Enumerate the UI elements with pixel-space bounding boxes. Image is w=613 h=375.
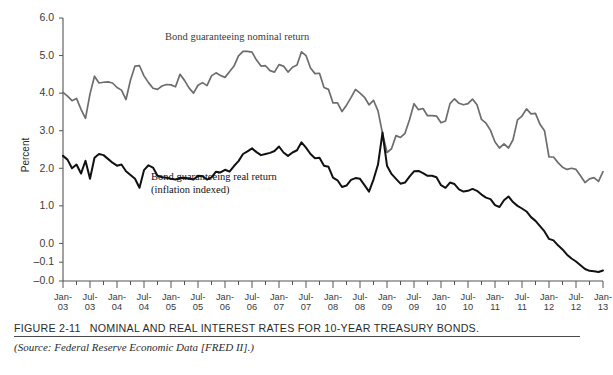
x-tick-label-month: Jan- — [432, 292, 450, 302]
figure-container: Percent 6.05.04.03.02.01.00.0–0.1–0.0 Ja… — [0, 0, 613, 375]
x-tick-label-year: 13 — [598, 302, 608, 312]
x-tick-label-year: 11 — [517, 302, 527, 312]
x-tick-label-month: Jul- — [353, 292, 368, 302]
figure-caption-line: FIGURE 2-11NOMINAL AND REAL INTEREST RAT… — [14, 322, 599, 336]
figure-number: FIGURE 2-11 — [14, 322, 81, 334]
x-tick-label-month: Jan- — [540, 292, 558, 302]
x-tick-label-year: 08 — [328, 302, 338, 312]
x-tick-label-month: Jul- — [245, 292, 260, 302]
figure-caption-block: FIGURE 2-11NOMINAL AND REAL INTEREST RAT… — [14, 322, 599, 353]
x-tick-label-year: 09 — [382, 302, 392, 312]
x-tick-label-month: Jul- — [515, 292, 530, 302]
x-tick-label-year: 07 — [274, 302, 284, 312]
x-tick-label-year: 08 — [355, 302, 365, 312]
axis-spines — [63, 18, 603, 281]
x-tick-label-month: Jan- — [162, 292, 180, 302]
x-tick-label-year: 09 — [409, 302, 419, 312]
y-tick-label: 3.0 — [39, 124, 54, 136]
x-tick-label-month: Jan- — [378, 292, 396, 302]
real-return-line — [63, 133, 603, 272]
x-tick-label-month: Jan- — [54, 292, 72, 302]
x-tick-label-year: 10 — [463, 302, 473, 312]
series-annotations: Bond guaranteeing nominal return Bond gu… — [151, 31, 310, 196]
y-tick-label: 2.0 — [39, 162, 54, 174]
nominal-series-annotation: Bond guaranteeing nominal return — [165, 31, 310, 42]
x-tick-label-year: 11 — [490, 302, 500, 312]
x-tick-label-year: 04 — [112, 302, 122, 312]
x-tick-label-year: 03 — [58, 302, 68, 312]
x-tick-label-month: Jul- — [407, 292, 422, 302]
x-tick-label-year: 04 — [139, 302, 149, 312]
figure-source: (Source: Federal Reserve Economic Data [… — [14, 337, 599, 353]
x-tick-label-month: Jul- — [137, 292, 152, 302]
y-tick-label: –0.0 — [34, 274, 55, 286]
chart-plot-area: Percent 6.05.04.03.02.01.00.0–0.1–0.0 Ja… — [0, 0, 613, 318]
y-tick-label: 4.0 — [39, 86, 54, 98]
x-tick-label-year: 07 — [301, 302, 311, 312]
x-tick-label-month: Jan- — [270, 292, 288, 302]
nominal-return-line — [63, 51, 603, 182]
interest-rates-line-chart: Percent 6.05.04.03.02.01.00.0–0.1–0.0 Ja… — [0, 0, 613, 318]
real-series-annotation-line1: Bond guaranteeing real return — [151, 171, 277, 182]
x-tick-label-month: Jan- — [108, 292, 126, 302]
y-tick-label: 1.0 — [39, 199, 54, 211]
x-tick-label-month: Jul- — [83, 292, 98, 302]
x-tick-label-year: 03 — [85, 302, 95, 312]
y-tick-label: –0.1 — [34, 255, 55, 267]
y-tick-label: 5.0 — [39, 49, 54, 61]
data-series-group — [63, 51, 603, 272]
x-tick-label-year: 05 — [193, 302, 203, 312]
x-tick-label-month: Jan- — [216, 292, 234, 302]
x-tick-label-month: Jul- — [191, 292, 206, 302]
x-tick-label-year: 12 — [544, 302, 554, 312]
x-tick-label-month: Jul- — [299, 292, 314, 302]
x-tick-label-month: Jan- — [486, 292, 504, 302]
x-tick-label-year: 06 — [247, 302, 257, 312]
y-axis-ticks: 6.05.04.03.02.01.00.0–0.1–0.0 — [34, 11, 63, 286]
figure-caption-text: NOMINAL AND REAL INTEREST RATES FOR 10-Y… — [90, 322, 480, 334]
x-tick-label-month: Jul- — [569, 292, 584, 302]
y-axis-title-label: Percent — [20, 138, 31, 173]
y-tick-label: 6.0 — [39, 11, 54, 23]
x-tick-label-year: 05 — [166, 302, 176, 312]
x-tick-label-year: 06 — [220, 302, 230, 312]
x-tick-label-month: Jan- — [594, 292, 612, 302]
x-tick-label-month: Jul- — [461, 292, 476, 302]
x-axis-ticks: Jan-03Jul-03Jan-04Jul-04Jan-05Jul-05Jan-… — [54, 281, 612, 312]
x-tick-label-year: 10 — [436, 302, 446, 312]
real-series-annotation-line2: (inflation indexed) — [151, 184, 230, 196]
y-tick-label: 0.0 — [39, 237, 54, 249]
y-axis-title: Percent — [20, 138, 31, 173]
x-tick-label-year: 12 — [571, 302, 581, 312]
x-tick-label-month: Jan- — [324, 292, 342, 302]
